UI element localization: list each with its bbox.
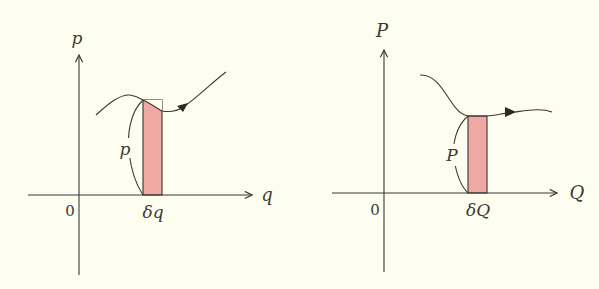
direction-arrow-icon: [177, 103, 188, 112]
p-axis-label: p: [72, 28, 83, 48]
delta-Q-label: δQ: [466, 200, 490, 220]
strip-delta-q: [143, 100, 162, 195]
phase-space-diagram: p q 0 δq p P Q 0 δQ P: [0, 0, 599, 289]
P-height-label: P: [445, 145, 458, 165]
P-axis-label: P: [375, 20, 389, 41]
Q-axis-label: Q: [570, 182, 585, 203]
transformed-trajectory-curve: [420, 75, 552, 116]
strip-delta-Q: [468, 116, 487, 193]
delta-q-label: δq: [142, 202, 163, 222]
direction-arrow-icon: [505, 107, 516, 117]
origin-label: 0: [370, 201, 380, 219]
left-panel: p q 0 δq p: [28, 28, 273, 275]
p-height-label: p: [120, 139, 131, 159]
origin-label: 0: [65, 202, 75, 220]
right-panel: P Q 0 δQ P: [332, 20, 585, 272]
q-axis-label: q: [261, 184, 273, 205]
